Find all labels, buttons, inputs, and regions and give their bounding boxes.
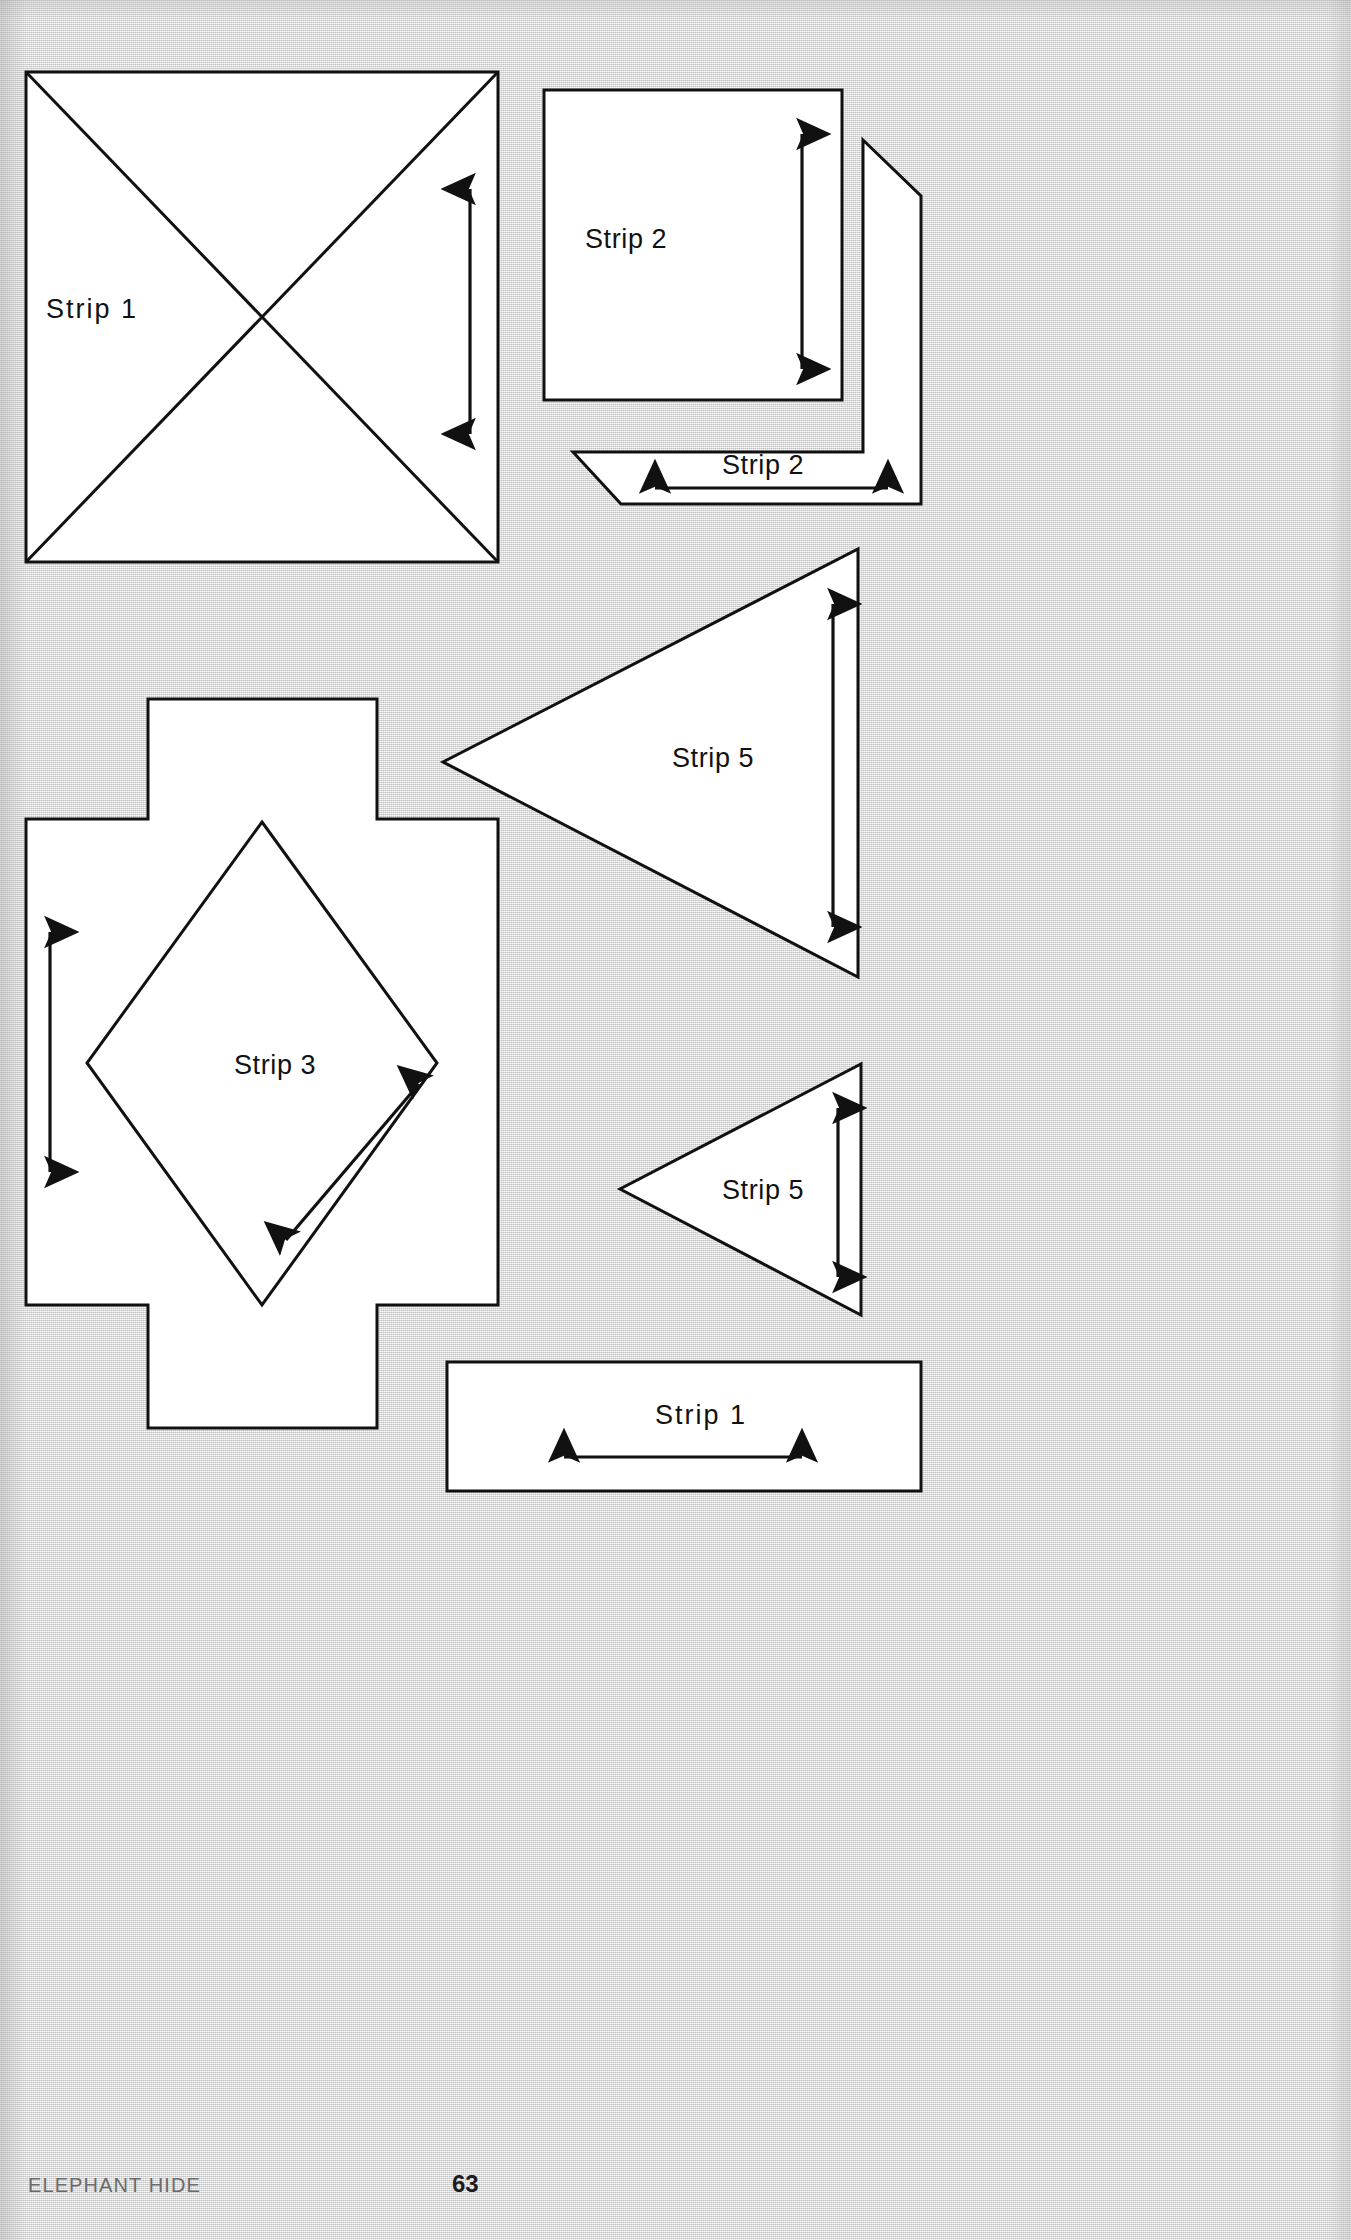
label-strip1-rect: Strip 1 [655,1400,747,1430]
label-strip5-small: Strip 5 [722,1175,804,1205]
page-footer: ELEPHANT HIDE 63 [0,2150,1351,2240]
origami-diagram: Strip 1 Strip 2 Strip 2 Strip 5 Strip 3 … [0,0,1351,2240]
strip5-large-outline [443,549,858,977]
shape-strip1-rect: Strip 1 [447,1362,921,1491]
label-strip5-large: Strip 5 [672,743,754,773]
shape-strip1-square: Strip 1 [26,72,498,562]
shape-strip3-cross: Strip 3 [26,699,498,1428]
label-strip2-skewed: Strip 2 [722,450,804,480]
shape-strip5-small-triangle: Strip 5 [620,1064,861,1315]
shape-strip2-square: Strip 2 [544,90,842,400]
label-strip2-square: Strip 2 [585,224,667,254]
footer-book-title: ELEPHANT HIDE [28,2174,201,2197]
label-strip3-cross: Strip 3 [234,1050,316,1080]
shape-strip5-large-triangle: Strip 5 [443,549,858,977]
footer-page-number: 63 [452,2170,479,2198]
label-strip1-square: Strip 1 [46,294,138,324]
